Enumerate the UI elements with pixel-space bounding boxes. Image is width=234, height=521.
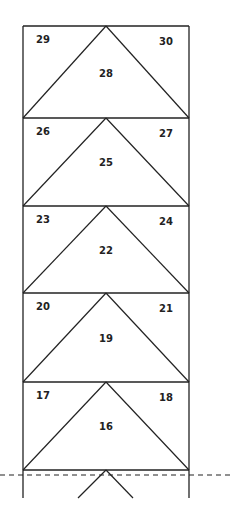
left-panel-label: 17	[36, 390, 50, 401]
right-panel-label: 27	[159, 128, 173, 139]
right-panel-label: 21	[159, 303, 173, 314]
triangle-right-diagonal	[106, 26, 189, 118]
partial-left-diagonal	[78, 470, 106, 498]
left-panel-label: 26	[36, 126, 50, 137]
panel-row: 171816	[23, 382, 189, 470]
partial-next-triangle	[78, 470, 133, 498]
triangle-right-diagonal	[106, 206, 189, 293]
left-panel-label: 23	[36, 214, 50, 225]
panel-rows: 293028262725232422202119171816	[23, 26, 189, 470]
right-panel-label: 30	[159, 36, 173, 47]
center-triangle-label: 22	[99, 245, 113, 256]
triangle-right-diagonal	[106, 118, 189, 206]
triangle-right-diagonal	[106, 293, 189, 382]
center-triangle-label: 28	[99, 68, 113, 79]
panel-row: 262725	[23, 118, 189, 206]
panel-row: 232422	[23, 206, 189, 293]
left-panel-label: 29	[36, 34, 50, 45]
triangle-right-diagonal	[106, 382, 189, 470]
right-panel-label: 18	[159, 392, 173, 403]
triangle-panel-diagram: 293028262725232422202119171816	[0, 0, 234, 521]
center-triangle-label: 16	[99, 421, 113, 432]
panel-row: 202119	[23, 293, 189, 382]
partial-right-diagonal	[106, 470, 133, 498]
left-panel-label: 20	[36, 301, 50, 312]
center-triangle-label: 25	[99, 157, 113, 168]
right-panel-label: 24	[159, 216, 173, 227]
center-triangle-label: 19	[99, 333, 113, 344]
panel-row: 293028	[23, 26, 189, 118]
